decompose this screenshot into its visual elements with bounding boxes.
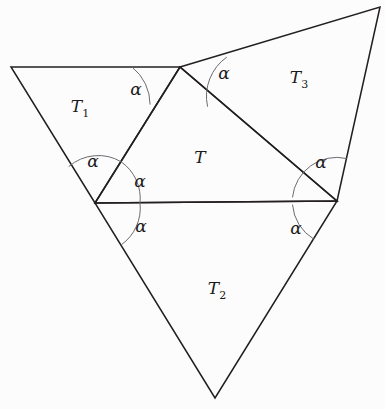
arc-top-left bbox=[132, 67, 150, 105]
arc-top-right bbox=[206, 57, 226, 107]
arc-left-middle bbox=[121, 162, 140, 203]
angle-arcs bbox=[69, 57, 347, 245]
geometry-figure: T T1 T2 T3 α α α α α α α bbox=[0, 0, 385, 409]
arc-right-lower bbox=[293, 205, 315, 240]
central-triangle-T bbox=[95, 67, 337, 203]
outer-triangle-T1 bbox=[11, 67, 180, 203]
figure-canvas bbox=[0, 0, 385, 409]
outer-triangle-T2 bbox=[95, 201, 337, 398]
arc-left-lower bbox=[121, 203, 140, 245]
triangle-edges bbox=[11, 7, 380, 398]
arc-left-upper bbox=[69, 156, 122, 167]
outer-triangle-T3 bbox=[180, 7, 380, 201]
